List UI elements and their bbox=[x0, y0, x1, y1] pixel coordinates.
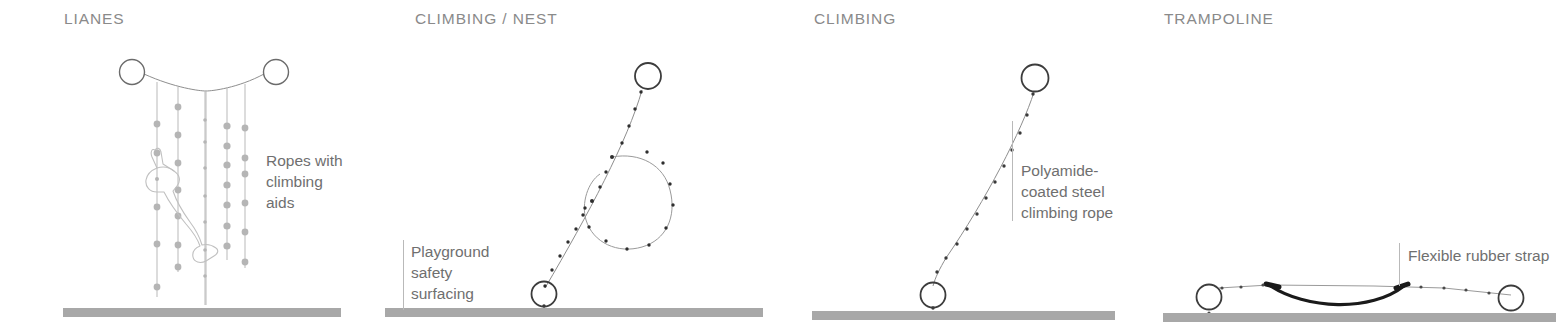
nest-main-rope bbox=[545, 90, 642, 288]
panel-lianes: LIANES bbox=[0, 0, 372, 328]
callout-lianes: Ropes with climbing aids bbox=[266, 150, 366, 213]
trampoline-cable-nodes bbox=[1207, 283, 1513, 316]
ground-bar-lianes bbox=[63, 308, 341, 317]
nest-rope-nodes bbox=[542, 90, 674, 307]
panel-gap-2 bbox=[766, 0, 806, 328]
panel-gap-3 bbox=[1120, 0, 1156, 328]
climbing-rope bbox=[933, 92, 1034, 286]
ground-bar-trampoline bbox=[1163, 313, 1556, 322]
flexible-rubber-strap bbox=[1266, 284, 1408, 305]
ground-bar-climbing bbox=[812, 311, 1115, 320]
panel-climbing: CLIMBING Polyamide- coated steel clim bbox=[806, 0, 1120, 328]
callout-leader-line-trampoline bbox=[1399, 243, 1400, 286]
callout-leader-line-climbing-nest bbox=[403, 240, 404, 310]
lianes-top-cable bbox=[144, 74, 264, 91]
climbing-rope-nodes bbox=[931, 92, 1034, 309]
panel-climbing-nest: CLIMBING / NEST bbox=[378, 0, 766, 328]
lianes-vertical-ropes bbox=[157, 82, 245, 305]
ground-bar-climbing-nest bbox=[385, 308, 763, 317]
callout-trampoline: Flexible rubber strap bbox=[1408, 245, 1556, 266]
nest-loop-rope bbox=[584, 156, 672, 249]
playground-equipment-diagram-sheet: LIANES bbox=[0, 0, 1556, 328]
lianes-anchor-rings bbox=[120, 60, 289, 85]
panel-trampoline: TRAMPOLINE bbox=[1156, 0, 1556, 328]
callout-leader-line-climbing bbox=[1012, 121, 1013, 221]
callout-climbing-nest: Playground safety surfacing bbox=[411, 241, 531, 304]
trampoline-anchor-rings bbox=[1197, 285, 1524, 311]
trampoline-illustration bbox=[1156, 0, 1556, 328]
